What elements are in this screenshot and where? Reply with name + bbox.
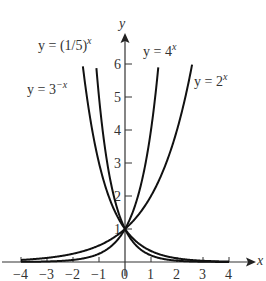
x-tick-label: 1: [147, 267, 154, 281]
y-tick-label: 6: [114, 57, 121, 72]
x-tick-label: 3: [199, 267, 206, 281]
y-tick-label: 3: [114, 156, 121, 171]
x-tick-label: −2: [65, 267, 80, 281]
x-tick-label: −4: [13, 267, 28, 281]
y-axis-label: y: [117, 16, 126, 31]
y-tick-label: 5: [114, 90, 121, 105]
y-axis: [121, 33, 130, 276]
x-tick-label: −3: [39, 267, 54, 281]
label-4-pow-x: y = 4x: [143, 41, 177, 59]
y-tick-label: 4: [114, 123, 121, 138]
x-tick-label: 4: [225, 267, 232, 281]
label-one-fifth-pow-x: y = (1/5)x: [38, 35, 92, 54]
label-3-pow-neg-x: y = 3−x: [27, 79, 68, 97]
x-tick-label: 0: [121, 267, 128, 281]
x-tick-label: −1: [91, 267, 106, 281]
x-axis-label: x: [256, 253, 264, 268]
exponential-functions-chart: −4−3−2−101234 123456 x y y = (1/5)x y = …: [0, 0, 266, 281]
label-2-pow-x: y = 2x: [194, 71, 228, 89]
x-tick-label: 2: [173, 267, 180, 281]
